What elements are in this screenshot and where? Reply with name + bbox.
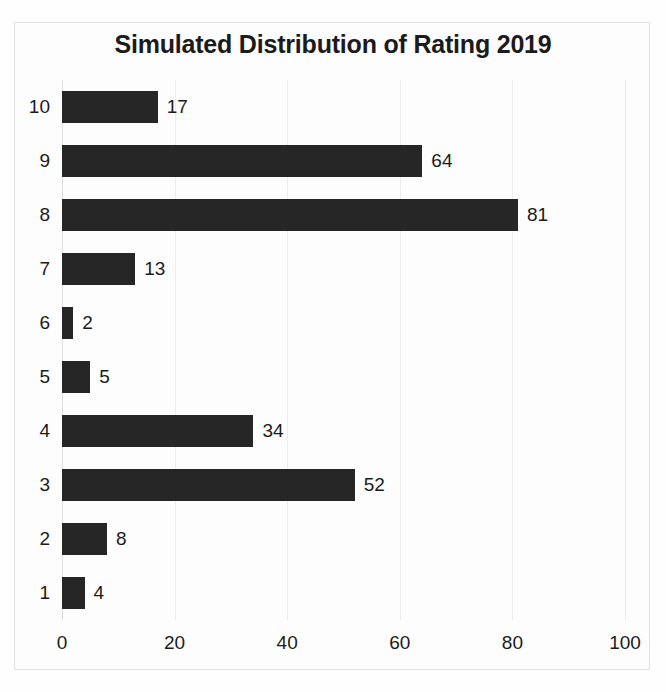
- bar-row: 55: [62, 350, 625, 404]
- bar-value-label: 2: [82, 309, 93, 337]
- x-tick-label: 40: [277, 630, 298, 656]
- category-label: 10: [4, 93, 50, 121]
- bar-row: 62: [62, 296, 625, 350]
- chart-title: Simulated Distribution of Rating 2019: [0, 30, 666, 59]
- x-tick-label: 20: [164, 630, 185, 656]
- category-label: 9: [4, 147, 50, 175]
- bar: [62, 91, 158, 123]
- bar-value-label: 8: [116, 525, 127, 553]
- bar-row: 434: [62, 404, 625, 458]
- bar-value-label: 34: [262, 417, 283, 445]
- bar: [62, 199, 518, 231]
- bar: [62, 361, 90, 393]
- category-label: 3: [4, 471, 50, 499]
- category-label: 1: [4, 579, 50, 607]
- gridline-100: [625, 80, 626, 620]
- category-label: 7: [4, 255, 50, 283]
- bar-row: 352: [62, 458, 625, 512]
- bar-row: 28: [62, 512, 625, 566]
- x-axis: 020406080100: [62, 630, 625, 660]
- bar: [62, 253, 135, 285]
- bar-value-label: 64: [431, 147, 452, 175]
- x-tick-label: 0: [57, 630, 68, 656]
- category-label: 2: [4, 525, 50, 553]
- bar-row: 14: [62, 566, 625, 620]
- bar: [62, 415, 253, 447]
- bar-value-label: 17: [167, 93, 188, 121]
- bar-row: 964: [62, 134, 625, 188]
- bar: [62, 577, 85, 609]
- x-tick-label: 100: [609, 630, 641, 656]
- bar-row: 881: [62, 188, 625, 242]
- category-label: 6: [4, 309, 50, 337]
- bar-value-label: 13: [144, 255, 165, 283]
- category-label: 4: [4, 417, 50, 445]
- bar-value-label: 52: [364, 471, 385, 499]
- bar: [62, 307, 73, 339]
- bar-row: 713: [62, 242, 625, 296]
- x-tick-label: 80: [502, 630, 523, 656]
- category-label: 8: [4, 201, 50, 229]
- bar: [62, 523, 107, 555]
- bar-value-label: 4: [94, 579, 105, 607]
- plot-area: 101796488171362554343522814: [62, 80, 625, 620]
- category-label: 5: [4, 363, 50, 391]
- bar: [62, 469, 355, 501]
- bar-value-label: 81: [527, 201, 548, 229]
- bar-row: 1017: [62, 80, 625, 134]
- bar: [62, 145, 422, 177]
- bar-value-label: 5: [99, 363, 110, 391]
- x-tick-label: 60: [389, 630, 410, 656]
- chart-container: Simulated Distribution of Rating 2019 10…: [0, 0, 666, 692]
